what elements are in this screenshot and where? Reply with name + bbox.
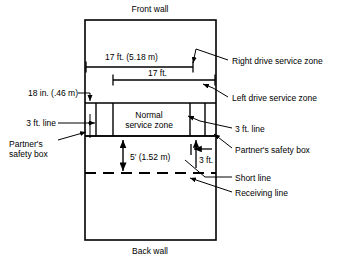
- front-wall-label: Front wall: [115, 4, 185, 14]
- partners-safety-box-right-label: Partner's safety box: [235, 145, 310, 155]
- partners-safety-box-left-label-line2: safety box: [9, 149, 48, 159]
- receiving-line-label: Receiving line: [235, 188, 288, 198]
- three-ft-line-right-label: 3 ft. line: [235, 124, 265, 134]
- dimension-5ft-label: 5′ (1.52 m): [130, 152, 170, 162]
- short-line-label: Short line: [235, 173, 271, 183]
- leader-partners-safety-box-left: [58, 132, 86, 140]
- leader-right-drive-service-zone: [193, 49, 228, 63]
- right-drive-service-zone-label: Right drive service zone: [232, 56, 323, 66]
- dimension-17ft-5-18m-label: 17 ft. (5.18 m): [105, 52, 158, 62]
- back-wall-label: Back wall: [115, 246, 185, 256]
- dimension-17ft-upper: [86, 62, 193, 73]
- court-line-drawing: [0, 0, 349, 267]
- dimension-17ft-label: 17 ft.: [148, 68, 167, 78]
- dimension-18in-label: 18 in. (.46 m): [8, 88, 78, 98]
- left-drive-service-zone-label: Left drive service zone: [232, 93, 317, 103]
- leader-18in: [78, 93, 90, 101]
- three-ft-line-left-label: 3 ft. line: [10, 118, 56, 128]
- normal-service-zone-label-line2: service zone: [113, 120, 185, 130]
- dimension-3ft-label: 3 ft.: [199, 155, 213, 165]
- racquetball-court-diagram: Front wall Back wall 17 ft. (5.18 m) 17 …: [0, 0, 349, 267]
- normal-service-zone-label-line1: Normal: [118, 110, 180, 120]
- leader-receiving-line: [190, 178, 232, 192]
- leader-3ft-line-right: [188, 116, 232, 128]
- partners-safety-box-left-label-line1: Partner's: [9, 139, 43, 149]
